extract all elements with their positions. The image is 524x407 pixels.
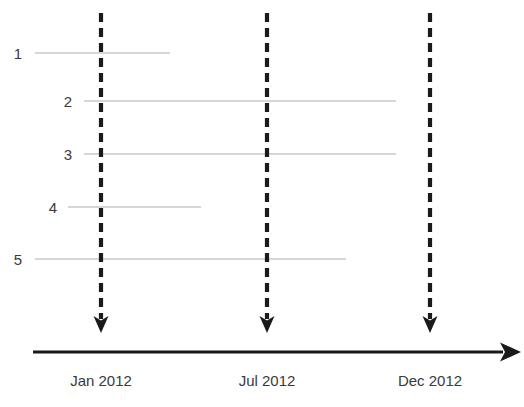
time-axis-group <box>33 343 521 362</box>
row-label-4: 4 <box>27 200 57 215</box>
row-label-5: 5 <box>0 252 22 267</box>
span-line-group <box>35 53 396 259</box>
time-axis-arrowhead <box>500 343 521 362</box>
row-label-2: 2 <box>42 94 72 109</box>
marker-line-group <box>101 13 430 319</box>
axis-tick-label-2: Jul 2012 <box>239 373 296 388</box>
timeline-diagram: 12345 Jan 2012Jul 2012Dec 2012 <box>0 0 524 407</box>
axis-tick-label-1: Jan 2012 <box>70 373 132 388</box>
row-label-1: 1 <box>0 46 22 61</box>
axis-tick-label-3: Dec 2012 <box>398 373 462 388</box>
row-label-3: 3 <box>42 147 72 162</box>
diagram-canvas <box>0 0 524 407</box>
